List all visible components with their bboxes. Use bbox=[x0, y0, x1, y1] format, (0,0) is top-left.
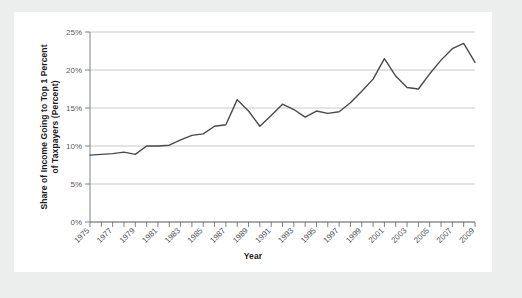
y-tick-labels: 0%5%10%15%20%25% bbox=[66, 28, 82, 227]
y-axis-title: Share of Income Going to Top 1 Percent o… bbox=[39, 22, 61, 232]
x-tick-label: 1997 bbox=[322, 226, 341, 245]
x-tick-label: 1985 bbox=[186, 226, 205, 245]
x-tick-label: 2001 bbox=[367, 226, 386, 245]
y-tick-label: 0% bbox=[70, 218, 82, 227]
x-tick-label: 1999 bbox=[344, 226, 363, 245]
gridlines bbox=[90, 32, 475, 184]
x-tick-label: 1989 bbox=[231, 226, 250, 245]
x-tick-label: 2003 bbox=[390, 226, 409, 245]
x-tick-label: 1991 bbox=[254, 226, 273, 245]
y-tick-label: 10% bbox=[66, 142, 82, 151]
y-axis-title-line1: Share of Income Going to Top 1 Percent bbox=[39, 22, 50, 232]
x-tick-label: 1977 bbox=[95, 226, 114, 245]
x-tick-label: 2007 bbox=[435, 226, 454, 245]
x-tick-marks bbox=[90, 222, 475, 227]
x-tick-label: 1987 bbox=[208, 226, 227, 245]
x-tick-label: 1979 bbox=[118, 226, 137, 245]
x-tick-label: 1983 bbox=[163, 226, 182, 245]
y-tick-marks bbox=[85, 32, 90, 222]
x-tick-label: 1993 bbox=[276, 226, 295, 245]
y-tick-label: 15% bbox=[66, 104, 82, 113]
y-tick-label: 25% bbox=[66, 28, 82, 37]
x-tick-labels: 1975197719791981198319851987198919911993… bbox=[72, 226, 476, 245]
x-tick-label: 2005 bbox=[412, 226, 431, 245]
x-tick-label: 1981 bbox=[140, 226, 159, 245]
x-tick-label: 1995 bbox=[299, 226, 318, 245]
y-axis-title-line2: of Taxpayers (Percent) bbox=[50, 22, 61, 232]
figure-root: 0%5%10%15%20%25% 19751977197919811983198… bbox=[0, 0, 522, 298]
x-tick-label: 2009 bbox=[457, 226, 476, 245]
y-tick-label: 20% bbox=[66, 66, 82, 75]
data-series-line bbox=[90, 43, 475, 155]
chart-panel: 0%5%10%15%20%25% 19751977197919811983198… bbox=[14, 12, 492, 272]
y-tick-label: 5% bbox=[70, 180, 82, 189]
line-chart: 0%5%10%15%20%25% 19751977197919811983198… bbox=[14, 12, 492, 272]
x-axis-title: Year bbox=[14, 251, 492, 261]
x-tick-label: 1975 bbox=[72, 226, 91, 245]
